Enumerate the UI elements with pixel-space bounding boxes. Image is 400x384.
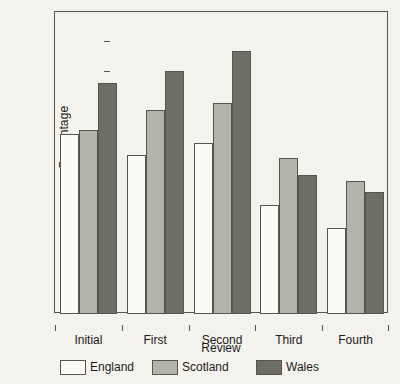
legend-label: England bbox=[90, 360, 134, 374]
bar bbox=[365, 192, 384, 314]
bar bbox=[298, 175, 317, 314]
legend-swatch-icon bbox=[152, 360, 178, 375]
x-tick-mark bbox=[189, 325, 190, 331]
x-tick-mark bbox=[255, 325, 256, 331]
chart-legend: EnglandScotlandWales bbox=[0, 357, 400, 381]
bar bbox=[60, 134, 79, 314]
plot-area: Percentage 02468101214161820 InitialFirs… bbox=[54, 11, 388, 313]
bar bbox=[279, 158, 298, 314]
bar bbox=[127, 155, 146, 314]
legend-label: Scotland bbox=[182, 360, 229, 374]
bar bbox=[98, 83, 117, 314]
x-tick-mark bbox=[122, 325, 123, 331]
x-tick-mark bbox=[388, 325, 389, 331]
y-tick-mark bbox=[104, 11, 110, 12]
chart-page: Percentage 02468101214161820 InitialFirs… bbox=[0, 0, 400, 384]
legend-item-england[interactable]: England bbox=[60, 357, 134, 377]
legend-label: Wales bbox=[286, 360, 319, 374]
x-tick-mark bbox=[322, 325, 323, 331]
bar bbox=[213, 103, 232, 314]
bar bbox=[79, 130, 98, 314]
y-tick-mark bbox=[104, 41, 110, 42]
bar bbox=[232, 51, 251, 314]
bar bbox=[165, 71, 184, 314]
x-tick-mark bbox=[55, 325, 56, 331]
legend-item-wales[interactable]: Wales bbox=[256, 357, 319, 377]
legend-item-scotland[interactable]: Scotland bbox=[152, 357, 229, 377]
bar bbox=[194, 143, 213, 314]
legend-swatch-icon bbox=[60, 360, 86, 375]
x-axis-title: Review bbox=[54, 341, 388, 355]
y-tick-mark bbox=[104, 71, 110, 72]
legend-swatch-icon bbox=[256, 360, 282, 375]
bar bbox=[146, 110, 165, 314]
bar bbox=[327, 228, 346, 314]
bar bbox=[346, 181, 365, 314]
bar bbox=[260, 205, 279, 314]
